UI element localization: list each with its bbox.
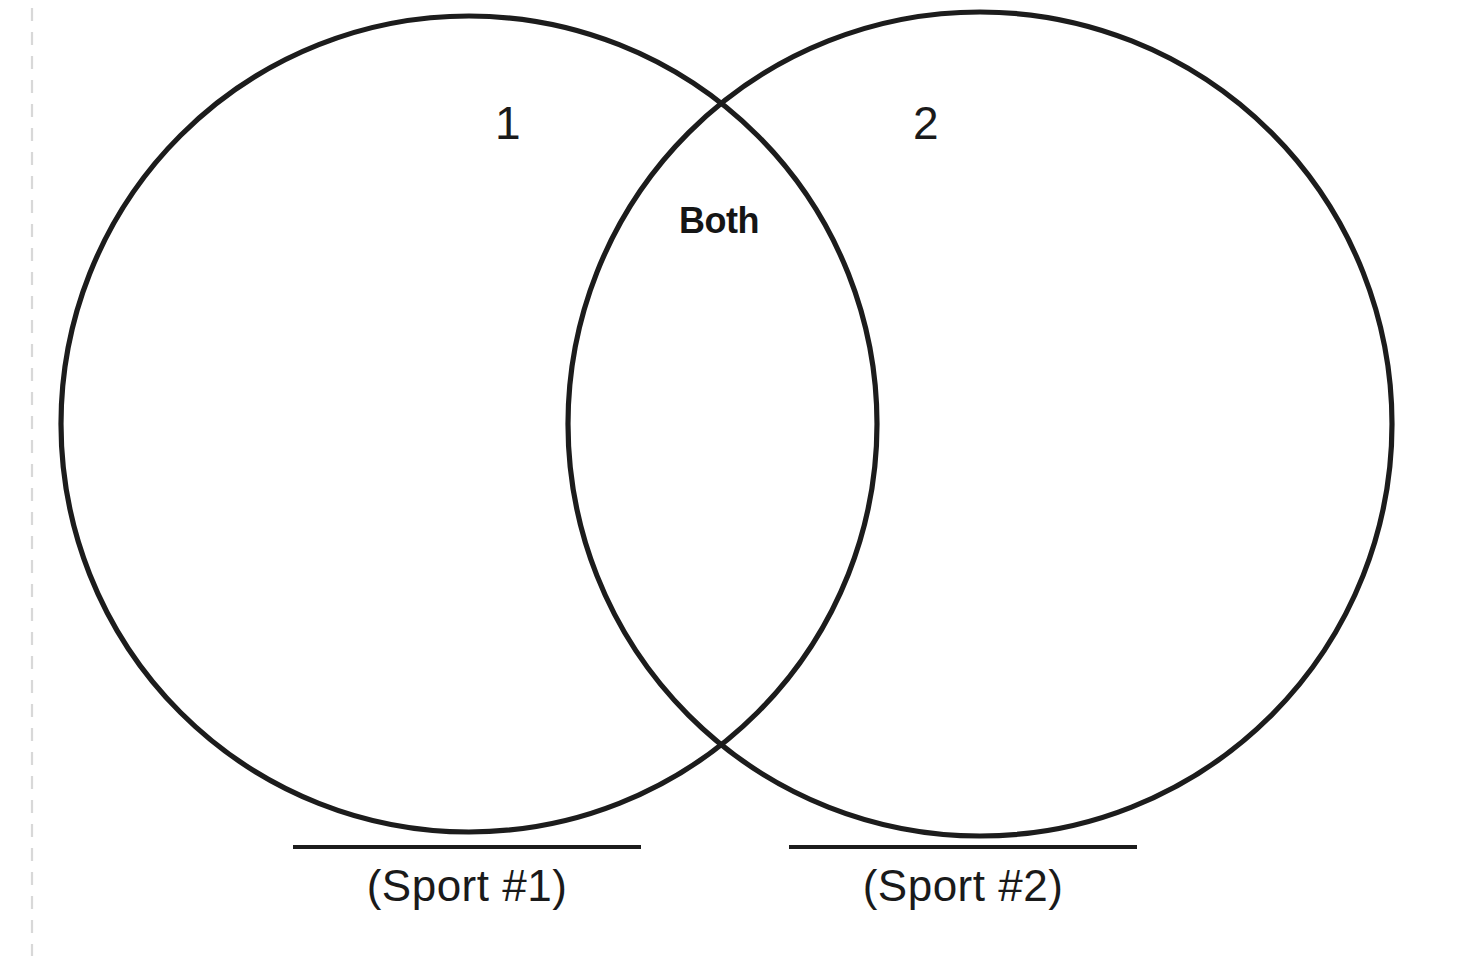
venn-circle-left[interactable] [61, 16, 877, 832]
caption-label-sport-2: (Sport #2) [783, 863, 1143, 909]
write-in-rule-sport-1[interactable] [293, 845, 641, 849]
write-in-rule-sport-2[interactable] [789, 845, 1137, 849]
venn-circle-right[interactable] [568, 12, 1392, 836]
worksheet-page: 1 2 Both (Sport #1) (Sport #2) [0, 0, 1467, 962]
venn-diagram-canvas [0, 0, 1467, 962]
caption-block-sport-2: (Sport #2) [783, 845, 1143, 909]
venn-label-both: Both [679, 203, 759, 239]
caption-label-sport-1: (Sport #1) [287, 863, 647, 909]
venn-label-set-2: 2 [913, 100, 939, 146]
caption-block-sport-1: (Sport #1) [287, 845, 647, 909]
venn-label-set-1: 1 [495, 100, 521, 146]
